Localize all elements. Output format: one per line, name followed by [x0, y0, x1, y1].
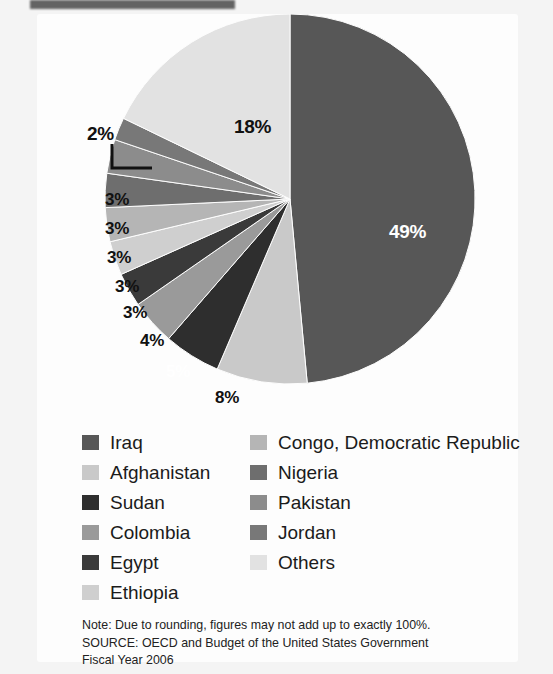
- footnote-source: SOURCE: OECD and Budget of the United St…: [82, 635, 512, 653]
- slice-value-label-3-b: 3%: [105, 219, 129, 239]
- legend-swatch-icon: [82, 525, 99, 540]
- legend-item-congo-democratic-republic[interactable]: Congo, Democratic Republic: [250, 427, 520, 457]
- page-background: 49%18%2%3%3%3%3%3%4%5%8% IraqAfghanistan…: [0, 0, 553, 674]
- pie-slice-iraq: [290, 14, 475, 383]
- legend-item-sudan[interactable]: Sudan: [82, 487, 210, 517]
- legend-swatch-icon: [250, 555, 267, 570]
- page-header-rule: [30, 0, 235, 9]
- slice-value-label-3-c: 3%: [107, 248, 131, 268]
- legend-item-label: Jordan: [278, 523, 336, 542]
- slice-value-label-2: 2%: [87, 123, 114, 145]
- slice-value-label-8: 8%: [215, 388, 239, 408]
- footnote-year: Fiscal Year 2006: [82, 652, 512, 670]
- legend-swatch-icon: [82, 585, 99, 600]
- legend-swatch-icon: [250, 465, 267, 480]
- legend-item-afghanistan[interactable]: Afghanistan: [82, 457, 210, 487]
- slice-value-label-3-d: 3%: [115, 277, 139, 297]
- legend-item-pakistan[interactable]: Pakistan: [250, 487, 520, 517]
- legend-item-egypt[interactable]: Egypt: [82, 547, 210, 577]
- legend-item-colombia[interactable]: Colombia: [82, 517, 210, 547]
- footnote: Note: Due to rounding, figures may not a…: [82, 617, 512, 670]
- legend-swatch-icon: [82, 435, 99, 450]
- footnote-note: Note: Due to rounding, figures may not a…: [82, 617, 512, 635]
- legend-swatch-icon: [82, 555, 99, 570]
- legend-column-left: IraqAfghanistanSudanColombiaEgyptEthiopi…: [82, 427, 210, 607]
- slice-value-label-3-jordan-adjacent: 3%: [105, 190, 129, 210]
- legend-item-label: Iraq: [110, 433, 143, 452]
- legend-swatch-icon: [250, 495, 267, 510]
- pie-slice-group: [105, 14, 475, 384]
- slice-value-label-5: 5%: [166, 362, 190, 382]
- legend-swatch-icon: [250, 525, 267, 540]
- slice-value-label-18: 18%: [234, 116, 271, 138]
- slice-value-label-4: 4%: [140, 331, 164, 351]
- legend-swatch-icon: [82, 495, 99, 510]
- legend-item-ethiopia[interactable]: Ethiopia: [82, 577, 210, 607]
- legend-item-label: Ethiopia: [110, 583, 179, 602]
- legend-item-jordan[interactable]: Jordan: [250, 517, 520, 547]
- legend-item-label: Afghanistan: [110, 463, 210, 482]
- legend-item-label: Others: [278, 553, 335, 572]
- legend-item-label: Nigeria: [278, 463, 338, 482]
- figure-card: 49%18%2%3%3%3%3%3%4%5%8% IraqAfghanistan…: [37, 14, 518, 662]
- legend-item-nigeria[interactable]: Nigeria: [250, 457, 520, 487]
- legend-item-others[interactable]: Others: [250, 547, 520, 577]
- legend-item-label: Congo, Democratic Republic: [278, 433, 520, 452]
- legend-swatch-icon: [82, 465, 99, 480]
- legend-swatch-icon: [250, 435, 267, 450]
- slice-value-label-3-e: 3%: [123, 303, 147, 323]
- pie-chart: 49%18%2%3%3%3%3%3%4%5%8%: [37, 14, 518, 424]
- legend-item-label: Colombia: [110, 523, 190, 542]
- legend-item-label: Pakistan: [278, 493, 351, 512]
- legend-item-label: Egypt: [110, 553, 159, 572]
- legend-column-right: Congo, Democratic RepublicNigeriaPakista…: [250, 427, 520, 577]
- slice-value-label-49: 49%: [389, 221, 426, 243]
- legend-item-label: Sudan: [110, 493, 165, 512]
- legend-item-iraq[interactable]: Iraq: [82, 427, 210, 457]
